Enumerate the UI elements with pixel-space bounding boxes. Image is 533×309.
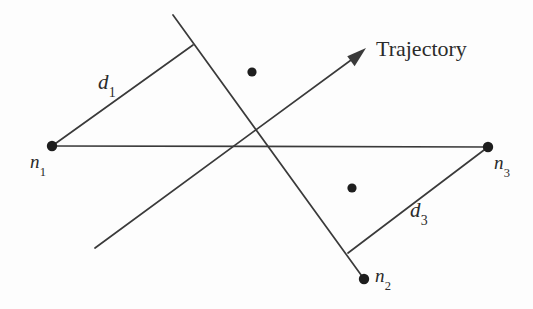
node-dot-n3 bbox=[483, 142, 493, 152]
distance-label-d1-subscript: 1 bbox=[109, 85, 116, 100]
trajectory-label: Trajectory bbox=[376, 38, 467, 60]
node-label-n3-base: n bbox=[494, 152, 504, 173]
node-label-n2-subscript: 2 bbox=[385, 279, 391, 293]
node-label-n2: n2 bbox=[375, 266, 391, 289]
trajectory-arrowhead bbox=[347, 48, 366, 66]
diagram-canvas: n1 n2 n3 d1 d3 Trajectory bbox=[0, 0, 533, 309]
distance-d1 bbox=[52, 45, 193, 146]
arrowhead-group bbox=[347, 48, 366, 66]
node-label-n3: n3 bbox=[494, 153, 510, 176]
marker-lower bbox=[347, 183, 356, 192]
marker-upper bbox=[247, 67, 256, 76]
distance-label-d3-subscript: 3 bbox=[421, 213, 428, 228]
node-label-n1-subscript: 1 bbox=[40, 165, 46, 179]
node-label-n2-base: n bbox=[375, 265, 385, 286]
node-label-n1-base: n bbox=[30, 151, 40, 172]
distance-label-d1-base: d bbox=[98, 70, 109, 94]
point-markers-group bbox=[247, 67, 356, 192]
node-label-n1: n1 bbox=[30, 152, 46, 175]
distance-label-d1: d1 bbox=[98, 72, 115, 97]
distance-label-d3: d3 bbox=[410, 200, 427, 225]
node-dot-n2 bbox=[359, 274, 369, 284]
node-label-n3-subscript: 3 bbox=[504, 166, 510, 180]
distance-label-d3-base: d bbox=[410, 198, 421, 222]
node-dot-n1 bbox=[47, 141, 57, 151]
trajectory-line bbox=[95, 52, 362, 248]
baseline-n1-n3 bbox=[52, 146, 488, 147]
